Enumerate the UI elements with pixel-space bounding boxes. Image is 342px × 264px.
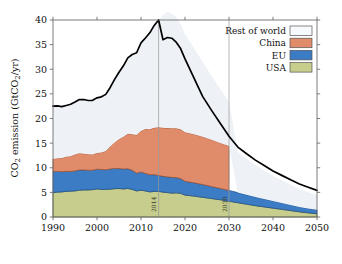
y-tick-label: 0 <box>41 211 47 222</box>
y-tick-label: 25 <box>35 88 47 99</box>
y-axis-tick-labels: 0510152025303540 <box>35 14 47 222</box>
legend-label-china: China <box>259 38 286 48</box>
x-tick-label: 2000 <box>85 222 109 233</box>
x-tick-label: 2040 <box>261 222 285 233</box>
y-axis-title-mid: emission (GtCO <box>9 79 20 158</box>
x-axis-tick-labels: 1990200020102020203020402050 <box>41 222 329 233</box>
y-tick-label: 10 <box>35 162 47 173</box>
legend-swatch-usa <box>290 63 312 73</box>
chart-figure: 20142030 1990200020102020203020402050 05… <box>0 0 342 264</box>
vline-2030-label: 2030 <box>221 197 228 212</box>
y-tick-label: 35 <box>35 39 47 50</box>
x-tick-label: 2020 <box>173 222 197 233</box>
legend-label-usa: USA <box>266 63 287 73</box>
y-tick-label: 15 <box>35 138 47 149</box>
legend-swatch-china <box>290 38 312 48</box>
y-axis-title-post: /yr) <box>9 58 20 75</box>
y-tick-label: 20 <box>35 113 47 124</box>
y-tick-label: 30 <box>35 64 47 75</box>
legend-label-rest-of-world: Rest of world <box>225 26 286 36</box>
legend-swatch-eu <box>290 50 312 60</box>
vline-2014-label: 2014 <box>150 197 157 212</box>
legend-swatch-rest-of-world <box>290 26 312 36</box>
y-tick-label: 40 <box>35 14 47 25</box>
x-tick-label: 2010 <box>129 222 153 233</box>
chart-svg: 20142030 1990200020102020203020402050 05… <box>0 0 342 264</box>
legend-label-eu: EU <box>272 51 287 61</box>
y-tick-label: 5 <box>41 187 47 198</box>
y-axis-title-pre: CO <box>9 162 20 177</box>
x-tick-label: 2050 <box>305 222 329 233</box>
x-tick-label: 2030 <box>217 222 241 233</box>
x-tick-label: 1990 <box>41 222 65 233</box>
y-axis-title: CO2 emission (GtCO2/yr) <box>9 58 22 177</box>
